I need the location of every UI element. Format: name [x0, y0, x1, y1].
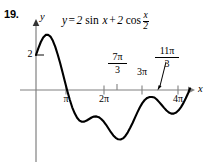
x-tick-label-pi: π — [60, 93, 72, 104]
y-axis-arrowhead — [33, 19, 40, 26]
equation-equals: = — [67, 14, 77, 26]
equation-term2-fraction: x2 — [143, 11, 149, 32]
equation-term2-arg-num: x — [143, 11, 149, 22]
annotation-7pi-over-3-num: 7π — [108, 52, 127, 64]
equation-term1-arg: x — [103, 14, 108, 26]
annotation-11pi-over-3: 11π 3 — [155, 46, 179, 69]
figure-container: 19. y=2 sin x+2 cosx2 y x 2 π 2π 3π 4π — [0, 0, 210, 168]
x-axis-label: x — [198, 83, 203, 94]
equation-term1-coeff: 2 — [77, 14, 83, 26]
equation-term1-fn: sin — [85, 14, 99, 26]
y-tick-label-2: 2 — [25, 48, 35, 59]
annotation-11pi-over-3-den: 3 — [155, 58, 179, 69]
annotation-7pi-over-3: 7π 3 — [108, 52, 127, 75]
equation-label: y=2 sin x+2 cosx2 — [62, 11, 149, 32]
equation-term2-fn: cos — [126, 14, 142, 26]
x-tick-label-4pi: 4π — [170, 93, 186, 104]
equation-term2-coeff: 2 — [117, 14, 123, 26]
equation-term2-arg-den: 2 — [143, 22, 149, 32]
annotation-7pi-over-3-den: 3 — [108, 64, 127, 75]
x-tick-label-2pi: 2π — [96, 93, 112, 104]
annotation-11pi-over-3-num: 11π — [155, 46, 179, 58]
y-axis-label: y — [40, 11, 45, 22]
equation-plus: + — [108, 14, 118, 26]
x-tick-label-3pi: 3π — [134, 66, 150, 77]
